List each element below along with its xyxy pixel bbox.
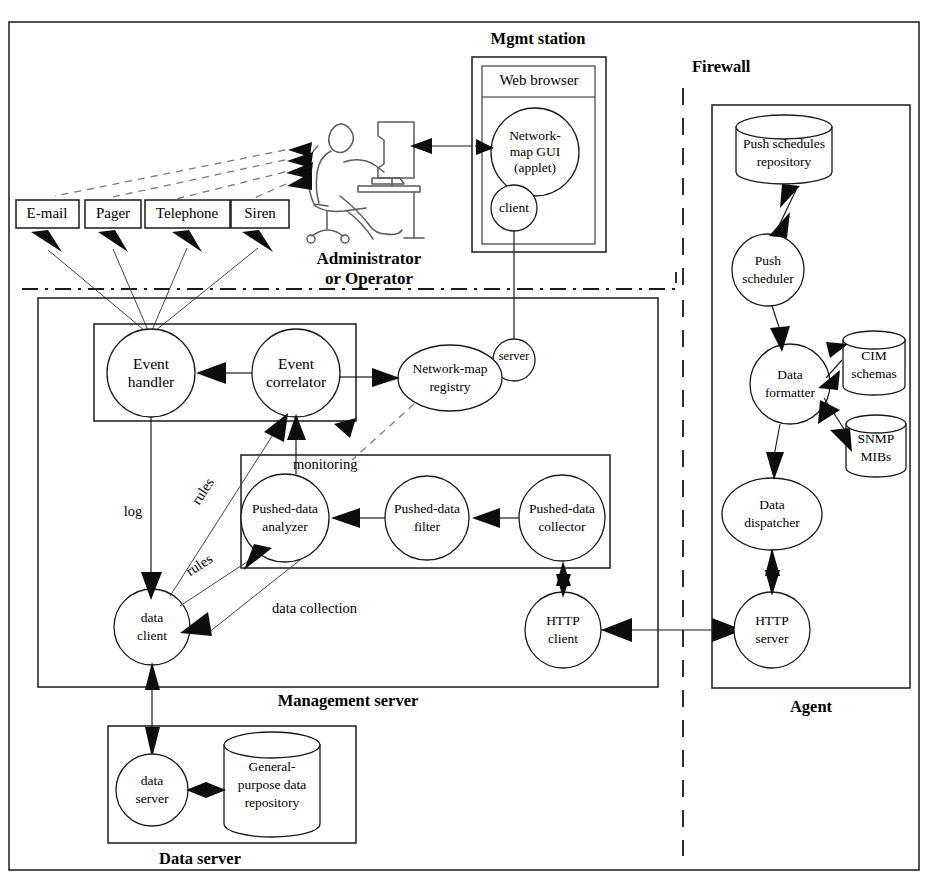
event-handler-alert-connectors <box>48 248 258 335</box>
http-server-line1: HTTP <box>755 613 789 628</box>
data-server-node-line1: data <box>141 773 164 788</box>
data-client-line1: data <box>141 610 164 625</box>
alert-arrowhead-pager <box>98 230 128 252</box>
data-formatter-line1: Data <box>777 367 802 382</box>
snmp-mibs-line1: SNMP <box>858 431 895 446</box>
data-server-node <box>116 754 188 826</box>
collector-to-filter-arrowhead <box>472 508 500 528</box>
snmp-to-formatter-arrowhead <box>830 428 852 452</box>
data-collection-line <box>208 560 300 633</box>
cim-schemas-line1: CIM <box>861 348 887 363</box>
data-dispatcher-node <box>722 478 822 550</box>
push-scheduler-line1: Push <box>755 253 782 268</box>
data-server-label: Data server <box>159 849 241 868</box>
formatter-to-dispatcher-arrowhead <box>766 452 784 480</box>
network-map-gui-line2: map GUI <box>510 144 561 159</box>
data-formatter-line2: formatter <box>765 385 816 400</box>
push-schedules-line2: repository <box>757 154 812 169</box>
formatter-to-snmp-arrowhead <box>818 400 840 424</box>
client-label: client <box>499 200 529 215</box>
repository-to-dataserver-arrowhead <box>186 782 206 798</box>
diagram-canvas: Web browser Mgmt station Network- map GU… <box>0 0 927 887</box>
architecture-diagram: Web browser Mgmt station Network- map GU… <box>0 0 927 887</box>
administrator-figure <box>307 122 424 243</box>
server-label: server <box>499 349 530 363</box>
event-correlator-line2: correlator <box>266 373 327 390</box>
http-client-line2: client <box>548 631 578 646</box>
pushed-data-collector-node <box>519 475 605 561</box>
event-correlator-line1: Event <box>278 355 315 372</box>
data-dispatcher-line2: dispatcher <box>744 515 800 530</box>
pushed-data-collector-line2: collector <box>538 519 586 534</box>
mgmt-station-label: Mgmt station <box>491 29 586 48</box>
scheduler-to-formatter-line <box>772 306 780 330</box>
network-map-registry-line2: registry <box>429 379 470 394</box>
http-server-line2: server <box>756 631 789 646</box>
push-schedules-line1: Push schedules <box>743 136 825 151</box>
network-map-registry-line1: Network-map <box>413 361 488 376</box>
formatter-to-dispatcher-line <box>774 424 780 456</box>
analyzer-to-correlator-arrowhead <box>287 414 306 440</box>
dataclient-to-dataserver-arrowhead <box>145 727 160 758</box>
correlator-to-handler-arrowhead <box>196 362 226 384</box>
network-map-gui-line1: Network- <box>509 128 561 143</box>
general-repository-line1: General- <box>248 759 296 774</box>
agent-label: Agent <box>790 697 833 716</box>
monitoring-edge-label: monitoring <box>293 456 357 472</box>
pushed-data-filter-line1: Pushed-data <box>394 501 460 516</box>
alert-label-siren: Siren <box>244 205 276 221</box>
rules-lower-label: rules <box>183 550 216 579</box>
snmp-mibs-line2: MIBs <box>861 449 892 464</box>
cim-schemas-line2: schemas <box>851 366 897 381</box>
data-client-node <box>114 589 190 665</box>
rules-upper-arrowhead <box>264 413 288 442</box>
general-repository-line2: purpose data <box>238 777 307 792</box>
network-map-registry-node <box>398 345 502 411</box>
http-client-line1: HTTP <box>546 613 580 628</box>
data-collection-label: data collection <box>272 600 358 616</box>
network-map-gui-line3: (applet) <box>514 160 556 175</box>
pushed-data-filter-line2: filter <box>414 519 441 534</box>
correlator-to-registry-arrowhead <box>372 368 400 387</box>
registry-to-monitoring-dashed <box>352 404 414 460</box>
http-client-node <box>525 592 601 668</box>
alert-label-pager: Pager <box>96 205 130 221</box>
administrator-label-line2: or Operator <box>325 269 413 288</box>
rules-upper-label: rules <box>188 475 217 508</box>
event-handler-line1: Event <box>133 355 170 372</box>
alert-burst <box>286 142 313 190</box>
data-dispatcher-line1: Data <box>759 497 784 512</box>
data-formatter-node <box>750 344 830 424</box>
event-handler-line2: handler <box>128 373 175 390</box>
pushed-data-filter-node <box>385 476 469 560</box>
management-server-label: Management server <box>278 691 419 710</box>
scheduler-to-repository-arrowhead <box>780 184 800 208</box>
http-server-node <box>734 592 810 668</box>
log-edge-label: log <box>124 503 143 519</box>
push-scheduler-node <box>732 234 804 306</box>
data-server-node-line2: server <box>136 791 169 806</box>
pushed-data-analyzer-line2: analyzer <box>262 519 308 534</box>
pushed-data-analyzer-line1: Pushed-data <box>252 501 318 516</box>
administrator-label-line1: Administrator <box>317 249 422 268</box>
alert-dashed-rays <box>55 150 286 199</box>
filter-to-analyzer-arrowhead <box>331 508 360 528</box>
repository-to-scheduler-arrowhead <box>769 212 790 238</box>
dataserver-to-dataclient-arrowhead <box>145 662 160 690</box>
data-client-line2: client <box>137 628 167 643</box>
httpserver-to-httpclient-arrowhead <box>601 618 632 642</box>
alert-label-email: E-mail <box>27 205 68 221</box>
firewall-label: Firewall <box>692 57 751 76</box>
alert-arrowhead-email <box>31 230 62 252</box>
web-browser-label: Web browser <box>499 72 578 88</box>
push-scheduler-line2: scheduler <box>742 271 794 286</box>
alert-label-telephone: Telephone <box>156 205 219 221</box>
general-repository-line3: repository <box>245 795 300 810</box>
dataserver-to-repository-arrowhead <box>206 782 226 798</box>
pushed-data-collector-line1: Pushed-data <box>529 501 595 516</box>
